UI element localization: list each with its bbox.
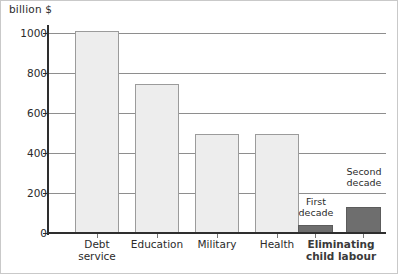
ytick-label-1000: 1000: [20, 27, 47, 39]
ytick-label-600: 600: [27, 107, 47, 119]
bar-note-second-decade: Second decade: [339, 166, 389, 188]
bar-health: [255, 134, 299, 233]
y-axis-line: [47, 25, 49, 235]
plot-area: 1000 800 600 400 200 0 First decade Seco…: [1, 1, 398, 274]
ytick-label-200: 200: [27, 187, 47, 199]
xtick-label-education: Education: [123, 238, 191, 250]
bar-chart: billion $ 1000 800 600 400 200 0 First d…: [0, 0, 398, 274]
xtick-label-eliminating-child-labour: Eliminating child labour: [295, 238, 387, 262]
bar-education: [135, 84, 179, 233]
xtick-label-debt-service: Debt service: [67, 238, 127, 262]
bar-military: [195, 134, 239, 233]
ytick-label-800: 800: [27, 67, 47, 79]
xtick-label-military: Military: [187, 238, 247, 250]
bar-note-first-decade: First decade: [292, 196, 340, 218]
bar-eliminating-child-labour-second-decade: [346, 207, 381, 233]
ytick-label-400: 400: [27, 147, 47, 159]
ytick-label-0: 0: [40, 227, 47, 239]
bar-debt-service: [75, 31, 119, 233]
